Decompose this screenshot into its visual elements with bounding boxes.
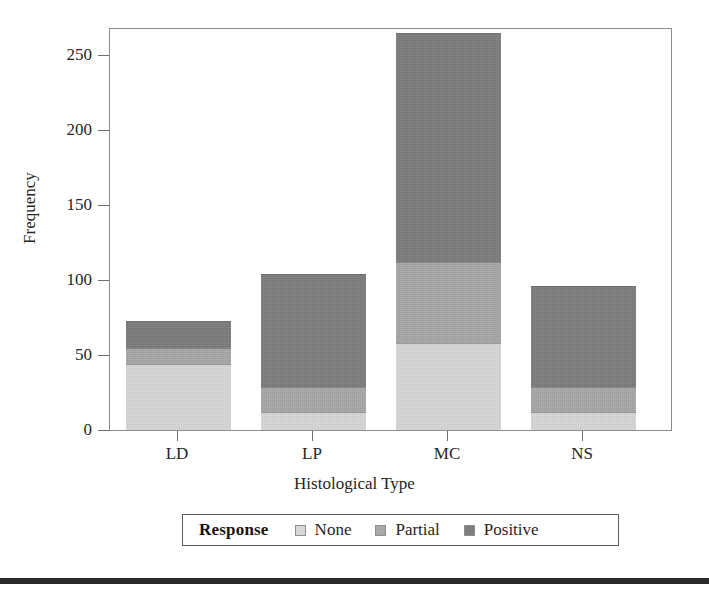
y-tick-label-250: 250 bbox=[36, 46, 92, 63]
y-tick-label-50: 50 bbox=[36, 346, 92, 363]
footer-rule bbox=[0, 578, 709, 584]
y-tick-250 bbox=[98, 55, 109, 56]
bar-segment-MC-positive[interactable] bbox=[396, 33, 501, 263]
x-tick-LD bbox=[177, 431, 178, 441]
bar-segment-NS-positive[interactable] bbox=[531, 286, 636, 387]
bar-group-MC[interactable] bbox=[396, 33, 501, 431]
bar-group-LD[interactable] bbox=[126, 321, 231, 431]
x-tick-label-LD: LD bbox=[117, 444, 237, 464]
y-tick-0 bbox=[98, 430, 109, 431]
legend-label-none: None bbox=[315, 520, 352, 540]
x-tick-label-MC: MC bbox=[387, 444, 507, 464]
bar-group-LP[interactable] bbox=[261, 274, 366, 430]
x-axis-title: Histological Type bbox=[0, 474, 709, 494]
legend-label-positive: Positive bbox=[484, 520, 539, 540]
bar-segment-MC-partial[interactable] bbox=[396, 262, 501, 343]
bar-segment-LP-positive[interactable] bbox=[261, 274, 366, 387]
y-tick-200 bbox=[98, 130, 109, 131]
bar-segment-LP-partial[interactable] bbox=[261, 387, 366, 413]
x-tick-MC bbox=[447, 431, 448, 441]
bar-segment-LD-none[interactable] bbox=[126, 364, 231, 430]
y-tick-label-200: 200 bbox=[36, 121, 92, 138]
y-tick-label-100: 100 bbox=[36, 271, 92, 288]
x-tick-label-NS: NS bbox=[522, 444, 642, 464]
y-tick-label-150: 150 bbox=[36, 196, 92, 213]
y-tick-150 bbox=[98, 205, 109, 206]
legend-item-positive[interactable]: Positive bbox=[464, 520, 539, 540]
plot-area bbox=[109, 28, 672, 431]
x-tick-LP bbox=[312, 431, 313, 441]
plot-inner bbox=[110, 29, 671, 430]
bar-segment-LP-none[interactable] bbox=[261, 412, 366, 430]
bar-segment-LD-partial[interactable] bbox=[126, 348, 231, 365]
legend-title: Response bbox=[199, 520, 269, 540]
legend-item-partial[interactable]: Partial bbox=[375, 520, 439, 540]
legend-swatch-positive-icon bbox=[464, 525, 475, 536]
legend-swatch-none-icon bbox=[295, 525, 306, 536]
bar-group-NS[interactable] bbox=[531, 286, 636, 430]
legend-item-none[interactable]: None bbox=[295, 520, 352, 540]
bar-segment-MC-none[interactable] bbox=[396, 343, 501, 430]
legend-swatch-partial-icon bbox=[375, 525, 386, 536]
y-tick-50 bbox=[98, 355, 109, 356]
stacked-bar-chart-figure: Frequency 250 200 150 100 50 0 bbox=[0, 0, 709, 589]
legend-label-partial: Partial bbox=[395, 520, 439, 540]
x-tick-NS bbox=[582, 431, 583, 441]
bar-segment-LD-positive[interactable] bbox=[126, 321, 231, 348]
x-tick-label-LP: LP bbox=[252, 444, 372, 464]
y-tick-label-0: 0 bbox=[36, 421, 92, 438]
bar-segment-NS-partial[interactable] bbox=[531, 387, 636, 413]
y-tick-100 bbox=[98, 280, 109, 281]
bar-segment-NS-none[interactable] bbox=[531, 412, 636, 430]
chart-legend: Response None Partial Positive bbox=[182, 514, 619, 546]
